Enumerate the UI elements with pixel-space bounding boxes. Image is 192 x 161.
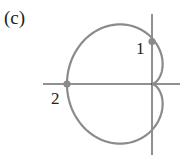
point-2: [63, 80, 70, 87]
point-1: [148, 38, 155, 45]
point-1-label: 1: [136, 40, 145, 57]
cardioid-diagram: [0, 0, 192, 161]
point-2-label: 2: [51, 90, 60, 107]
